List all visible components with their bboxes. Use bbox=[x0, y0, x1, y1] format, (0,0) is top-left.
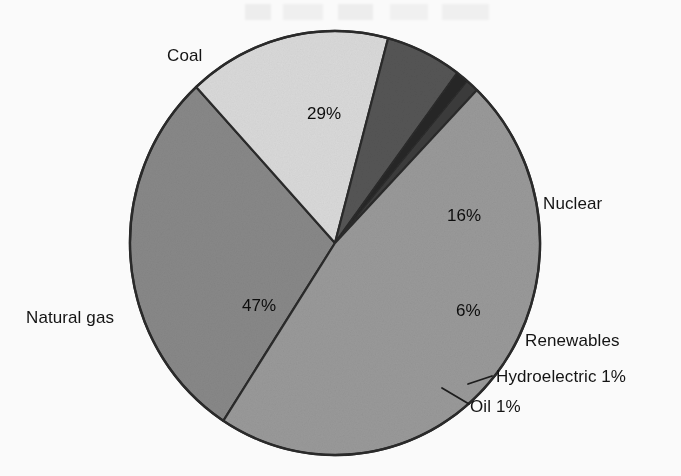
pie-value-nuclear: 16% bbox=[447, 206, 481, 226]
pie-label-oil: Oil 1% bbox=[470, 397, 521, 417]
chart-canvas: Coal Nuclear Renewables Hydroelectric 1%… bbox=[0, 0, 681, 476]
pie-label-nuclear: Nuclear bbox=[543, 194, 602, 214]
pie-value-renewables: 6% bbox=[456, 301, 481, 321]
pie-label-renewables: Renewables bbox=[525, 331, 620, 351]
pie-label-hydroelectric: Hydroelectric 1% bbox=[496, 367, 626, 387]
pie-label-coal: Coal bbox=[167, 46, 202, 66]
pie-label-natural-gas: Natural gas bbox=[26, 308, 114, 328]
pie-value-coal: 29% bbox=[307, 104, 341, 124]
pie-value-natural-gas: 47% bbox=[242, 296, 276, 316]
pie-chart-graphic bbox=[0, 0, 681, 476]
